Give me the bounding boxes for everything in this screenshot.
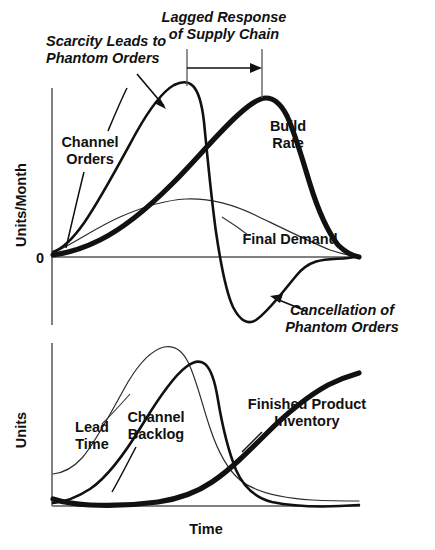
label-channel-backlog: Channel Backlog: [112, 409, 185, 492]
annotation-lagged-response-line1: Lagged Response: [162, 9, 287, 25]
annotation-lagged-response: Lagged Response of Supply Chain: [162, 9, 287, 98]
annotation-scarcity-line2: Phantom Orders: [46, 50, 160, 66]
bottom-panel-y-axis-label: Units: [13, 412, 29, 448]
top-panel: 0 Units/Month Scarcity Leads to Phantom …: [13, 9, 399, 335]
annotation-cancellation-line2: Phantom Orders: [285, 319, 399, 335]
label-finished-product-inventory-line2: Inventory: [274, 413, 339, 429]
label-channel-backlog-line1: Channel: [127, 409, 184, 425]
label-lead-time: Lead Time: [75, 394, 130, 452]
label-build-rate-line2: Rate: [272, 135, 303, 151]
label-lead-time-leader: [102, 394, 130, 424]
curve-final-demand: [53, 199, 359, 257]
label-lead-time-line2: Time: [75, 436, 109, 452]
annotation-scarcity: Scarcity Leads to Phantom Orders: [46, 33, 166, 109]
label-channel-orders-leader-up: [108, 88, 127, 131]
label-final-demand: Final Demand: [222, 217, 338, 247]
label-final-demand-text: Final Demand: [242, 231, 337, 247]
arrowhead-icon: [250, 63, 262, 73]
annotation-cancellation: Cancellation of Phantom Orders: [270, 294, 399, 335]
label-channel-orders-line2: Orders: [66, 151, 114, 167]
top-panel-y-axis-label: Units/Month: [13, 163, 29, 247]
top-panel-zero-label: 0: [36, 250, 44, 266]
label-final-demand-leader: [222, 217, 248, 235]
label-build-rate-line1: Build: [270, 118, 306, 134]
label-build-rate: Build Rate: [270, 118, 306, 151]
annotation-scarcity-line1: Scarcity Leads to: [46, 33, 166, 49]
curve-channel-orders: [53, 82, 359, 322]
label-finished-product-inventory-line1: Finished Product: [248, 396, 367, 412]
supply-chain-dynamics-figure: 0 Units/Month Scarcity Leads to Phantom …: [0, 0, 435, 550]
bottom-panel-x-axis-label: Time: [189, 521, 223, 537]
label-channel-orders-line1: Channel: [61, 134, 118, 150]
annotation-cancellation-line1: Cancellation of: [290, 302, 396, 318]
bottom-panel: Units Time Lead Time Channel Backlog Fin…: [13, 343, 366, 537]
label-channel-backlog-line2: Backlog: [128, 426, 184, 442]
label-finished-product-inventory: Finished Product Inventory: [242, 396, 366, 452]
annotation-lagged-response-line2: of Supply Chain: [169, 26, 280, 42]
arrowhead-icon: [154, 98, 166, 109]
